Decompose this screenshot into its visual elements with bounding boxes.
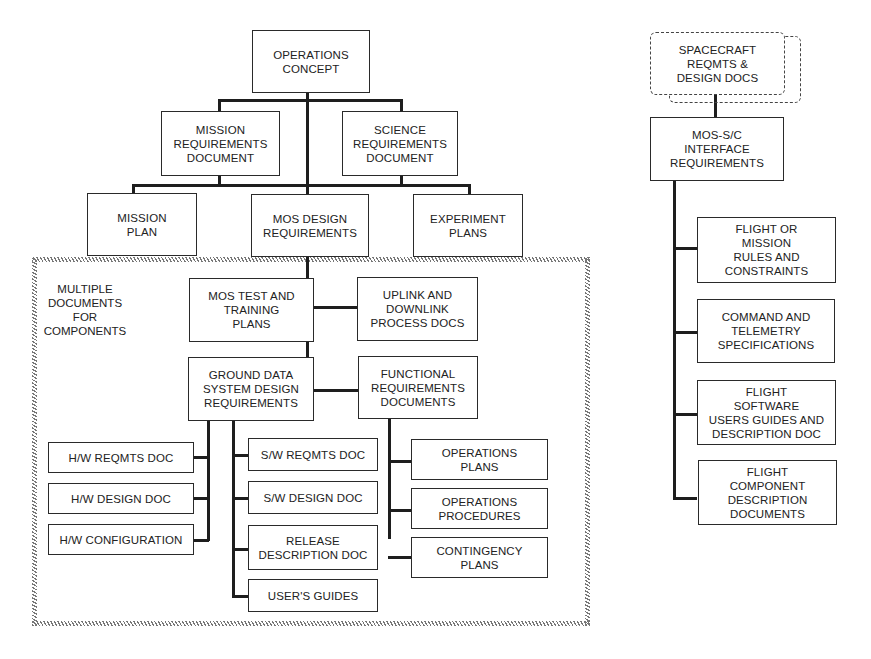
connector <box>232 454 248 457</box>
node-operations-concept: OPERATIONS CONCEPT <box>252 30 370 93</box>
node-sw-reqmts-doc: S/W REQMTS DOC <box>248 438 378 471</box>
group-label-multiple-documents: MULTIPLE DOCUMENTS FOR COMPONENTS <box>40 282 130 338</box>
connector <box>673 413 697 416</box>
connector <box>193 539 209 542</box>
node-ground-data-system-design-requirements: GROUND DATA SYSTEM DESIGN REQUIREMENTS <box>188 357 314 421</box>
connector <box>207 420 210 541</box>
node-mos-design-requirements: MOS DESIGN REQUIREMENTS <box>251 194 369 257</box>
node-flight-mission-rules-constraints: FLIGHT OR MISSION RULES AND CONSTRAINTS <box>697 217 836 283</box>
node-hw-reqmts-doc: H/W REQMTS DOC <box>48 442 194 473</box>
connector <box>232 595 248 598</box>
group-border-bottom <box>32 621 590 626</box>
connector <box>673 331 697 334</box>
node-spacecraft-reqmts-design-docs: SPACECRAFT REQMTS & DESIGN DOCS <box>650 32 785 95</box>
node-uplink-downlink-process-docs: UPLINK AND DOWNLINK PROCESS DOCS <box>357 277 478 341</box>
node-mos-sc-interface-requirements: MOS-S/C INTERFACE REQUIREMENTS <box>650 117 784 181</box>
node-operations-procedures: OPERATIONS PROCEDURES <box>411 488 548 529</box>
node-sw-design-doc: S/W DESIGN DOC <box>248 481 378 514</box>
node-hw-configuration: H/W CONFIGURATION <box>48 524 194 555</box>
node-mos-test-training-plans: MOS TEST AND TRAINING PLANS <box>189 278 314 342</box>
connector <box>132 184 470 187</box>
node-functional-requirements-documents: FUNCTIONAL REQUIREMENTS DOCUMENTS <box>358 356 478 419</box>
connector <box>673 247 697 250</box>
connector <box>193 456 209 459</box>
node-hw-design-doc: H/W DESIGN DOC <box>48 483 194 514</box>
connector <box>388 460 412 463</box>
node-flight-software-users-guides: FLIGHT SOFTWARE USERS GUIDES AND DESCRIP… <box>697 380 836 445</box>
node-experiment-plans: EXPERIMENT PLANS <box>413 194 523 257</box>
node-mission-plan: MISSION PLAN <box>87 193 197 256</box>
connector <box>388 418 391 539</box>
node-operations-plans: OPERATIONS PLANS <box>411 439 548 480</box>
connector <box>218 99 402 102</box>
connector <box>232 420 235 597</box>
group-border-right <box>585 257 590 626</box>
group-border-top <box>32 257 590 262</box>
node-contingency-plans: CONTINGENCY PLANS <box>411 537 548 578</box>
connector <box>388 509 412 512</box>
connector <box>232 548 248 551</box>
connector <box>388 556 412 559</box>
node-mission-requirements-document: MISSION REQUIREMENTS DOCUMENT <box>161 111 280 176</box>
document-hierarchy-diagram: OPERATIONS CONCEPT MISSION REQUIREMENTS … <box>0 0 871 659</box>
connector <box>673 497 697 500</box>
node-flight-component-description-documents: FLIGHT COMPONENT DESCRIPTION DOCUMENTS <box>698 460 837 525</box>
group-border-left <box>32 257 37 626</box>
node-command-telemetry-specifications: COMMAND AND TELEMETRY SPECIFICATIONS <box>697 299 835 363</box>
node-release-description-doc: RELEASE DESCRIPTION DOC <box>248 525 378 570</box>
connector <box>673 180 676 499</box>
connector <box>232 497 248 500</box>
node-science-requirements-document: SCIENCE REQUIREMENTS DOCUMENT <box>342 111 458 176</box>
node-users-guides: USER'S GUIDES <box>248 579 378 612</box>
connector <box>193 497 209 500</box>
